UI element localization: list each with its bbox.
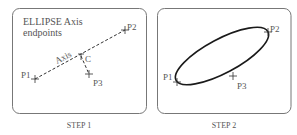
point-p1-marker bbox=[31, 75, 39, 83]
point-p1-label: P1 bbox=[21, 70, 31, 80]
ellipse-axis-diagram: ELLIPSE Axis endpoints P1 P2 C P3 Axis S… bbox=[0, 0, 297, 135]
point-p3-marker bbox=[229, 72, 237, 80]
point-p3-label: P3 bbox=[237, 81, 247, 91]
caption-step2: STEP 2 bbox=[212, 121, 236, 130]
panel-title-line1: ELLIPSE Axis bbox=[23, 16, 83, 27]
point-c-label: C bbox=[85, 54, 91, 64]
caption-step1: STEP 1 bbox=[67, 121, 91, 130]
ellipse-shape bbox=[168, 17, 276, 96]
point-p3-marker bbox=[85, 70, 93, 78]
panel-title-line2: endpoints bbox=[23, 27, 62, 38]
point-p2-label: P2 bbox=[270, 24, 280, 34]
panel-step1: ELLIPSE Axis endpoints P1 P2 C P3 Axis bbox=[13, 9, 147, 114]
point-p1-label: P1 bbox=[163, 72, 173, 82]
point-p2-label: P2 bbox=[127, 22, 137, 32]
point-p1-marker bbox=[173, 78, 181, 86]
point-p3-label: P3 bbox=[93, 78, 103, 88]
panel-step2: P1 P2 P3 bbox=[158, 9, 292, 114]
